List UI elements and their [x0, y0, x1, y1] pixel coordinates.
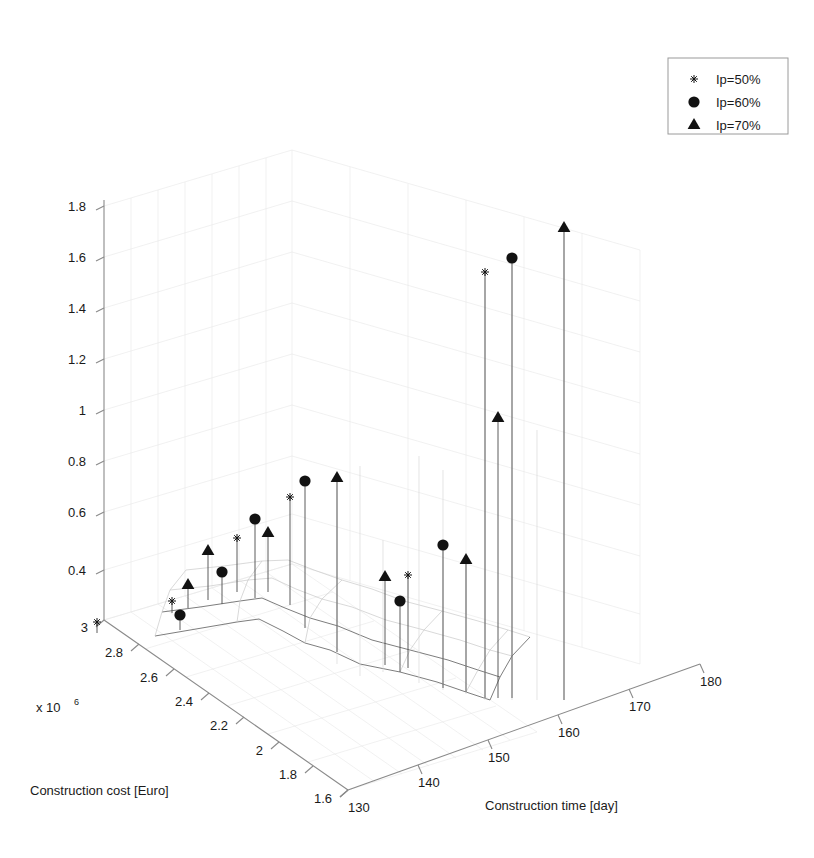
- z-tick-label: 1.8: [68, 199, 86, 214]
- x-tick-label: 3: [81, 620, 88, 635]
- x-axis: [96, 620, 348, 797]
- exponent-label: x 10: [36, 700, 61, 715]
- x-tick-label: 2.6: [140, 670, 158, 685]
- exponent-superscript: 6: [74, 697, 79, 707]
- circle-marker: [174, 609, 185, 620]
- z-tick-label: 0.6: [68, 505, 86, 520]
- y-axis-title: Construction time [day]: [485, 798, 618, 813]
- star-marker: [286, 493, 294, 501]
- y-tick-label: 160: [558, 725, 580, 740]
- circle-marker: [216, 566, 227, 577]
- x-tick-label: 2.4: [175, 694, 193, 709]
- y-tick-label: 170: [629, 699, 651, 714]
- y-tick-label: 140: [418, 775, 440, 790]
- circle-marker: [394, 595, 405, 606]
- star-marker: [481, 268, 489, 276]
- plot-svg: 1.8 1.6 1.4 1.2 1 0.8 0.6 0.4 3 2.8 2.6 …: [0, 0, 814, 858]
- triangle-marker: [331, 471, 344, 482]
- y-tick-label: 150: [488, 750, 510, 765]
- z-axis: [96, 200, 104, 620]
- triangle-marker: [262, 526, 275, 537]
- x-axis-exponent: x 10 6: [36, 697, 79, 715]
- figure-canvas: 1.8 1.6 1.4 1.2 1 0.8 0.6 0.4 3 2.8 2.6 …: [0, 0, 814, 858]
- circle-marker: [299, 475, 310, 486]
- circle-marker: [437, 539, 448, 550]
- legend-label: Ip=50%: [716, 72, 761, 87]
- x-tick-label: 1.6: [314, 791, 332, 806]
- triangle-marker: [460, 553, 473, 564]
- z-tick-label: 0.8: [68, 454, 86, 469]
- circle-marker: [249, 513, 260, 524]
- star-marker: [690, 75, 698, 83]
- star-marker: [168, 597, 176, 605]
- legend-label: Ip=60%: [716, 95, 761, 110]
- z-tick-labels: 1.8 1.6 1.4 1.2 1 0.8 0.6 0.4: [68, 199, 86, 578]
- triangle-marker: [492, 411, 505, 422]
- x-tick-label: 2.2: [210, 718, 228, 733]
- z-tick-label: 0.4: [68, 563, 86, 578]
- y-tick-label: 130: [348, 800, 370, 815]
- x-tick-label: 2: [256, 743, 263, 758]
- z-tick-label: 1.2: [68, 352, 86, 367]
- grid-floor: [104, 564, 537, 790]
- y-axis: [340, 664, 704, 797]
- circle-marker: [506, 252, 517, 263]
- triangle-marker: [182, 578, 195, 589]
- z-tick-label: 1: [79, 403, 86, 418]
- x-axis-title: Construction cost [Euro]: [30, 783, 169, 798]
- circle-marker: [688, 96, 699, 107]
- triangle-marker: [379, 570, 392, 581]
- triangle-marker: [558, 221, 571, 232]
- z-tick-label: 1.4: [68, 301, 86, 316]
- x-tick-label: 1.8: [279, 767, 297, 782]
- series-ip50: [93, 268, 489, 698]
- triangle-marker: [202, 544, 215, 555]
- star-marker: [404, 571, 412, 579]
- x-tick-labels: 3 2.8 2.6 2.4 2.2 2 1.8 1.6: [81, 620, 332, 806]
- z-tick-label: 1.6: [68, 250, 86, 265]
- x-tick-label: 2.8: [105, 645, 123, 660]
- y-tick-label: 180: [700, 674, 722, 689]
- legend[interactable]: Ip=50% Ip=60% Ip=70%: [668, 58, 788, 134]
- legend-label: Ip=70%: [716, 118, 761, 133]
- star-marker: [233, 534, 241, 542]
- projection-lines: [337, 228, 564, 700]
- star-marker: [93, 618, 101, 626]
